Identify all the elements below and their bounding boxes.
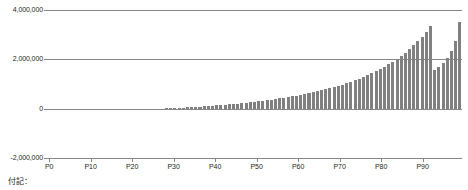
x-axis-tick-mark — [215, 158, 216, 162]
bar — [240, 103, 243, 109]
bar — [425, 32, 428, 109]
bar — [454, 41, 457, 109]
bar — [370, 73, 373, 108]
x-axis-tick-label: P80 — [375, 163, 387, 171]
bar — [375, 71, 378, 108]
bar — [190, 107, 193, 109]
bar — [429, 26, 432, 108]
bar — [198, 107, 201, 109]
bar — [186, 107, 189, 108]
bar — [421, 37, 424, 109]
bar — [354, 80, 357, 108]
bar — [249, 102, 252, 109]
x-axis-tick-mark — [381, 158, 382, 162]
bar — [358, 79, 361, 109]
x-axis-tick-mark — [49, 158, 50, 162]
bar — [253, 102, 256, 109]
bar — [182, 108, 185, 109]
x-axis-tick-label: P30 — [168, 163, 180, 171]
bar — [211, 106, 214, 109]
bar — [446, 58, 449, 109]
bar — [228, 104, 231, 108]
bar — [349, 82, 352, 109]
bar — [433, 70, 436, 109]
bar — [266, 100, 269, 109]
bar — [396, 59, 399, 109]
bar — [391, 62, 394, 109]
x-axis-tick-mark — [132, 158, 133, 162]
bar — [379, 69, 382, 109]
bar — [320, 90, 323, 108]
bar — [203, 106, 206, 108]
bar — [450, 51, 453, 109]
bar — [194, 107, 197, 109]
x-axis-tick-mark — [174, 158, 175, 162]
bar-series — [47, 10, 462, 158]
bar — [291, 96, 294, 108]
x-axis-tick-mark — [257, 158, 258, 162]
bar — [458, 22, 461, 108]
bar — [232, 104, 235, 109]
bar — [328, 88, 331, 108]
x-axis-tick-group: P0P10P20P30P40P50P60P70P80P90 — [47, 158, 462, 174]
y-axis-tick-label: 2,000,000 — [2, 55, 43, 63]
x-axis-tick-label: P90 — [417, 163, 429, 171]
bar — [287, 97, 290, 109]
bar — [362, 77, 365, 109]
y-axis-tick-label: 4,000,000 — [2, 6, 43, 14]
bar — [442, 63, 445, 109]
bar — [412, 45, 415, 108]
bar — [257, 101, 260, 108]
x-axis-tick-mark — [340, 158, 341, 162]
bar — [236, 104, 239, 109]
bar — [324, 89, 327, 108]
bar — [312, 92, 315, 108]
bar — [307, 93, 310, 108]
bar — [299, 95, 302, 109]
bar — [387, 64, 390, 108]
x-axis-tick-label: P20 — [126, 163, 138, 171]
bar — [270, 100, 273, 109]
bar — [383, 67, 386, 109]
bar — [219, 105, 222, 109]
x-axis-tick-mark — [423, 158, 424, 162]
bar — [366, 75, 369, 108]
x-axis-tick-label: P50 — [251, 163, 263, 171]
bar — [408, 49, 411, 109]
bar — [173, 108, 176, 109]
bar — [215, 105, 218, 108]
x-axis-tick-label: P60 — [292, 163, 304, 171]
bar — [333, 87, 336, 109]
x-axis-tick-label: P70 — [334, 163, 346, 171]
bar — [207, 106, 210, 109]
bar — [282, 98, 285, 109]
bar — [278, 98, 281, 108]
bar — [341, 85, 344, 109]
bar — [400, 56, 403, 109]
x-axis-tick-label: P0 — [45, 163, 53, 171]
x-axis-tick-label: P10 — [85, 163, 97, 171]
bar — [295, 96, 298, 109]
bar — [416, 41, 419, 109]
bar — [178, 108, 181, 109]
bar — [404, 53, 407, 109]
x-axis-tick-mark — [91, 158, 92, 162]
bar-chart-figure: 4,000,0002,000,0000-2,000,000 P0P10P20P3… — [0, 0, 468, 190]
bar — [224, 105, 227, 109]
bar — [437, 67, 440, 109]
bar — [274, 99, 277, 109]
bar — [345, 83, 348, 108]
bar — [337, 86, 340, 109]
x-axis-tick-mark — [298, 158, 299, 162]
y-axis-tick-label: -2,000,000 — [2, 154, 43, 162]
x-axis-tick-label: P40 — [209, 163, 221, 171]
y-axis-tick-label: 0 — [2, 105, 43, 113]
bar — [303, 94, 306, 109]
bar — [316, 91, 319, 108]
footer-note: 付記： — [8, 177, 32, 187]
bar — [261, 101, 264, 109]
bar — [245, 103, 248, 109]
plot-area: 4,000,0002,000,0000-2,000,000 — [47, 10, 462, 158]
